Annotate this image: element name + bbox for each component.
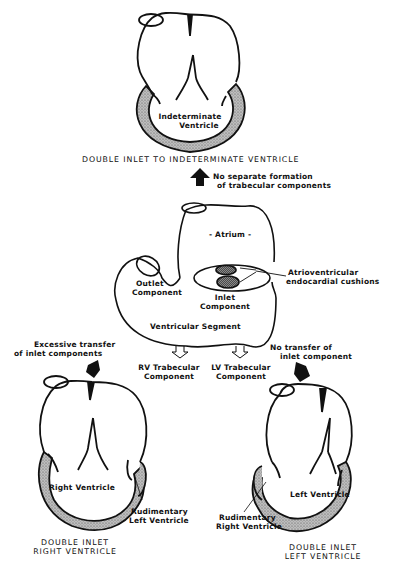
- outlet-label-line1: Outlet: [132, 279, 182, 288]
- inlet-label-line1: Inlet: [200, 293, 250, 302]
- arrow-down-left-icon: [86, 360, 100, 378]
- left-title-line2: RIGHT VENTRICLE: [20, 547, 130, 556]
- chamber-label-line2: Ventricle: [150, 121, 230, 130]
- left-ventricle-label: Left Ventricle: [290, 490, 350, 499]
- rudimentary-rv-line1: Rudimentary: [216, 513, 282, 522]
- inlet-label-line2: Component: [200, 302, 250, 311]
- rv-trab-line2: Component: [134, 372, 204, 381]
- cushion-label-line2: endocardial cushions: [286, 277, 379, 286]
- rudimentary-rv-line2: Right Ventricle: [216, 522, 282, 531]
- top-arrow-label: No separate formation of trabecular comp…: [213, 172, 331, 190]
- av-cushions-label: Atrioventricular endocardial cushions: [286, 268, 379, 286]
- right-title-line1: DOUBLE INLET: [268, 543, 378, 552]
- rudimentary-lv-line1: Rudimentary: [129, 507, 189, 516]
- top-heart: [137, 13, 245, 152]
- chamber-label-line1: Indeterminate: [150, 112, 230, 121]
- lv-trab-line1: LV Trabecular: [206, 363, 276, 372]
- indeterminate-ventricle-label: Indeterminate Ventricle: [150, 112, 230, 130]
- rv-trab-line1: RV Trabecular: [134, 363, 204, 372]
- rudimentary-left-ventricle-label: Rudimentary Left Ventricle: [129, 507, 189, 525]
- lv-trabecular-label: LV Trabecular Component: [206, 363, 276, 381]
- left-title: DOUBLE INLET RIGHT VENTRICLE: [20, 538, 130, 556]
- left-arrow-label-line2: of inlet components: [14, 349, 115, 358]
- top-arrow-label-line2: of trabecular components: [213, 181, 331, 190]
- rv-trabecular-label: RV Trabecular Component: [134, 363, 204, 381]
- rudimentary-right-ventricle-label: Rudimentary Right Ventricle: [216, 513, 282, 531]
- left-arrow-label-line1: Excessive transfer: [14, 340, 115, 349]
- arrow-up-icon: [190, 168, 210, 186]
- right-title: DOUBLE INLET LEFT VENTRICLE: [268, 543, 378, 561]
- right-heart: [244, 384, 352, 531]
- outlet-label-line2: Component: [132, 288, 182, 297]
- cushion-label-line1: Atrioventricular: [286, 268, 379, 277]
- ventricular-segment-label: Ventricular Segment: [150, 322, 241, 331]
- right-arrow-label-line2: inlet component: [270, 352, 352, 361]
- atrium-label: - Atrium -: [209, 230, 251, 239]
- top-arrow-label-line1: No separate formation: [213, 172, 331, 181]
- top-title: DOUBLE INLET TO INDETERMINATE VENTRICLE: [82, 155, 299, 164]
- arrow-down-right-icon: [294, 362, 310, 382]
- outlet-component-label: Outlet Component: [132, 279, 182, 297]
- lv-trab-line2: Component: [206, 372, 276, 381]
- right-arrow-label-line1: No transfer of: [270, 343, 352, 352]
- rudimentary-lv-line2: Left Ventricle: [129, 516, 189, 525]
- right-ventricle-label: Right Ventricle: [49, 483, 115, 492]
- left-arrow-label: Excessive transfer of inlet components: [14, 340, 115, 358]
- right-arrow-label: No transfer of inlet component: [270, 343, 352, 361]
- inlet-component-label: Inlet Component: [200, 293, 250, 311]
- left-title-line1: DOUBLE INLET: [20, 538, 130, 547]
- right-title-line2: LEFT VENTRICLE: [268, 552, 378, 561]
